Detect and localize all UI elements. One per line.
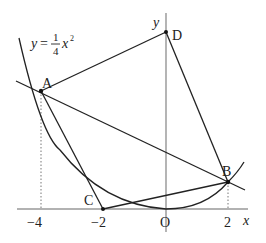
eq-exponent: 2 xyxy=(70,34,74,43)
eq-denominator: 4 xyxy=(53,45,59,57)
segment-db xyxy=(166,32,228,182)
tick-pos2: 2 xyxy=(224,215,231,230)
segment-ad xyxy=(41,32,166,91)
y-axis-label: y xyxy=(151,15,160,30)
eq-equals: = xyxy=(40,36,48,51)
eq-y: y xyxy=(29,36,38,51)
coordinate-diagram: A B C D y x O −4 −2 2 y = 1 4 x 2 xyxy=(0,0,266,243)
point-d xyxy=(164,30,168,34)
curve-equation-label: y = 1 4 x 2 xyxy=(29,31,74,57)
label-b: B xyxy=(222,164,231,179)
eq-numerator: 1 xyxy=(53,31,59,43)
label-d: D xyxy=(172,28,182,43)
origin-label: O xyxy=(160,215,170,230)
point-c xyxy=(101,207,105,211)
line-ab xyxy=(16,81,245,190)
point-b xyxy=(226,180,230,184)
label-a: A xyxy=(42,76,53,91)
eq-x: x xyxy=(61,36,69,51)
label-c: C xyxy=(84,193,93,208)
tick-neg4: −4 xyxy=(27,215,42,230)
parabola xyxy=(19,38,244,209)
x-axis-label: x xyxy=(242,213,250,228)
segment-ac xyxy=(41,91,103,209)
tick-neg2: −2 xyxy=(91,215,106,230)
